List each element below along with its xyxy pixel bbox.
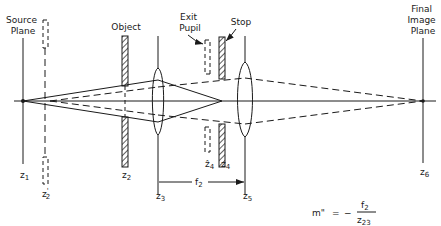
z2-label: z2: [122, 170, 131, 182]
final-image-plane-label: Final Image Plane: [407, 4, 438, 36]
object-label: Object: [111, 22, 141, 32]
z4-label: z4: [221, 159, 231, 171]
source-plane-label: Source Plane: [6, 15, 40, 36]
svg-text:z23: z23: [357, 215, 371, 226]
z3-label: z3: [156, 191, 165, 203]
exit-pupil-label: Exit Pupil: [179, 12, 201, 33]
f2-label: f2: [195, 177, 203, 189]
focal-length-dimension: f2: [159, 177, 244, 189]
virtual-object-aperture: [43, 20, 48, 184]
z6-label: z6: [420, 167, 430, 179]
stop-pointer-arrow: [226, 29, 236, 41]
lens-2: [238, 36, 253, 195]
z1-label: z1: [20, 170, 29, 182]
svg-text:=: =: [332, 208, 340, 218]
z5-label: z5: [243, 191, 252, 203]
svg-text:f2: f2: [361, 200, 369, 212]
svg-text:−: −: [344, 208, 352, 218]
stop-label: Stop: [231, 17, 252, 27]
svg-text:m": m": [312, 208, 325, 218]
exit-pupil-pointer-arrow: [188, 35, 203, 44]
magnification-equation: m" = − f2 z23: [312, 200, 376, 226]
z2-prime-label: z'2: [42, 187, 50, 201]
z4-hat-label: ẑ4: [205, 159, 215, 171]
optical-system-diagram: Source Plane Object Exit Pupil Stop Fina…: [0, 0, 441, 226]
